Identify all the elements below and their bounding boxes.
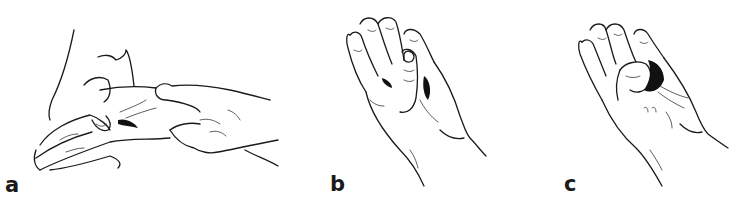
panel-c: c — [540, 0, 740, 204]
hand-thumb-flexed-illustration — [320, 0, 520, 204]
panel-b: b — [320, 0, 520, 204]
panel-label-c: c — [564, 174, 576, 195]
panel-label-b: b — [330, 174, 345, 195]
panel-label-a: a — [5, 175, 19, 196]
hands-grasp-illustration — [0, 0, 300, 204]
panel-a: a — [0, 0, 300, 204]
